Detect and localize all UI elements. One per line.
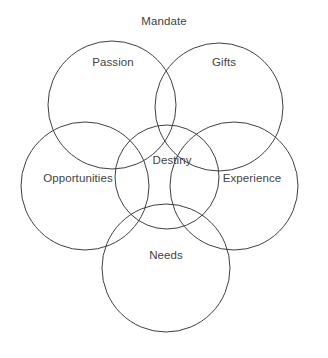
label-opportunities: Opportunities (43, 172, 113, 185)
label-gifts: Gifts (212, 56, 236, 69)
label-needs: Needs (149, 249, 183, 262)
label-experience: Experience (223, 172, 282, 185)
venn-diagram: Mandate Passion Gifts Opportunities Expe… (0, 0, 328, 358)
circle-needs (102, 204, 230, 332)
label-destiny: Destiny (152, 154, 191, 167)
label-passion: Passion (92, 56, 134, 69)
circle-experience (170, 122, 298, 250)
